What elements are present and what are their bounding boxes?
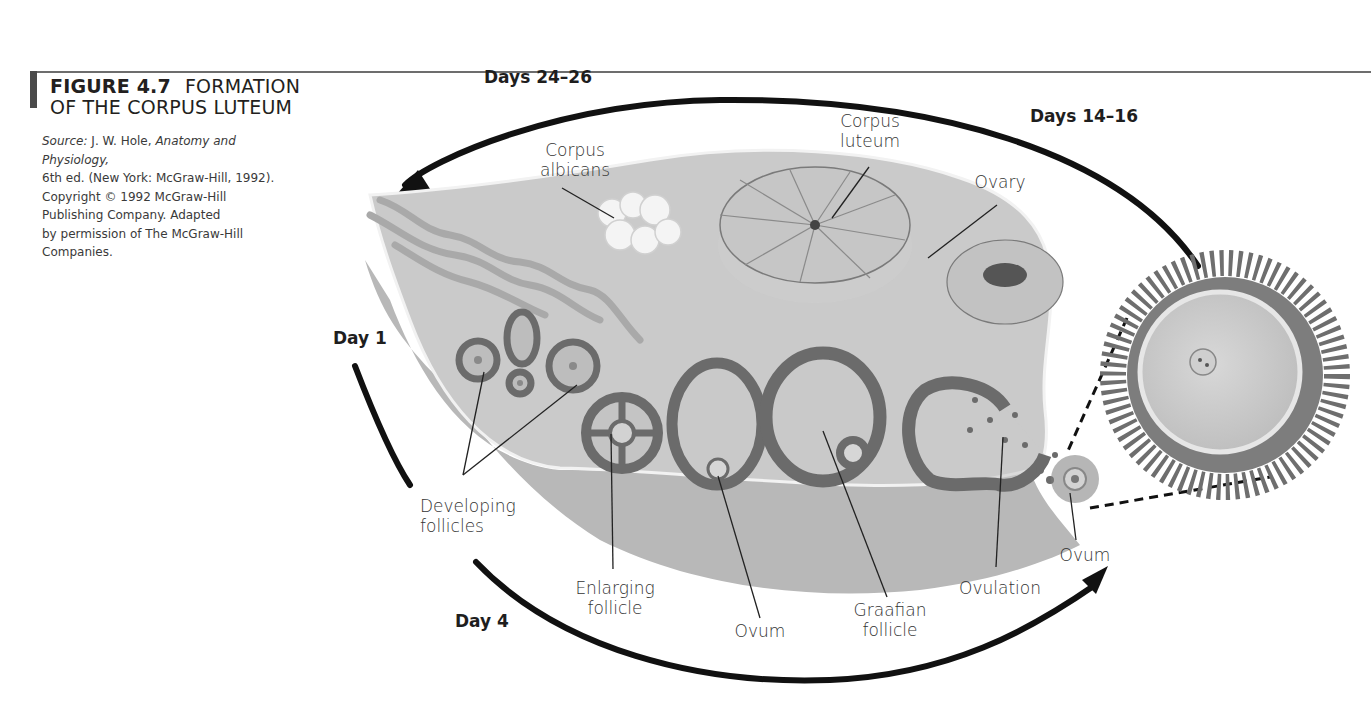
follicle-with-ovum: [672, 363, 762, 485]
label-day-1: Day 1: [333, 328, 387, 348]
ovary-diagram: [0, 0, 1371, 705]
label-corpus-albicans: Corpus albicans: [520, 140, 630, 180]
label-ovum-released: Ovum: [1050, 545, 1120, 565]
label-ovum-inner: Ovum: [725, 621, 795, 641]
label-developing-follicles: Developing follicles: [420, 496, 530, 536]
label-ovulation: Ovulation: [950, 578, 1050, 598]
enlarging-follicle: [586, 397, 658, 469]
magnified-ovum: [1113, 263, 1337, 487]
label-ovary: Ovary: [960, 172, 1040, 192]
label-days-24-26: Days 24–26: [484, 67, 592, 87]
corpus-luteum-regressing: [947, 240, 1063, 324]
label-days-14-16: Days 14–16: [1030, 106, 1138, 126]
corpus-luteum: [718, 167, 912, 303]
released-ovum: [1051, 455, 1099, 503]
label-day-4: Day 4: [455, 611, 509, 631]
label-enlarging-follicle: Enlarging follicle: [565, 578, 665, 618]
graafian-follicle: [766, 353, 880, 481]
label-graafian-follicle: Graafian follicle: [840, 600, 940, 640]
label-corpus-luteum: Corpus luteum: [820, 111, 920, 151]
cycle-arrow-left: [355, 366, 410, 485]
